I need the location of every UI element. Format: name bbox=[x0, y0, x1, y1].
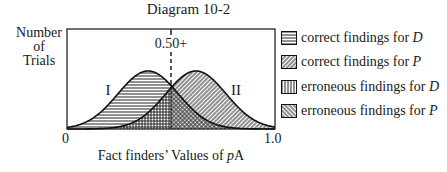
x-axis-label-suffix: A bbox=[234, 148, 244, 163]
legend-item-erroneous-p: erroneous findings for P bbox=[281, 104, 447, 120]
horizontal-lines-swatch-icon bbox=[281, 31, 298, 46]
curve-label-ii: II bbox=[231, 82, 241, 98]
x-axis-label-prefix: Fact finders’ Values of bbox=[98, 148, 227, 163]
legend-item-correct-p: correct findings for P bbox=[281, 55, 447, 71]
legend-var: P bbox=[429, 103, 438, 118]
legend-label: erroneous findings for bbox=[301, 79, 429, 94]
legend-var: P bbox=[413, 54, 422, 69]
x-tick-min: 0 bbox=[62, 131, 69, 147]
legend-label: correct findings for bbox=[301, 54, 413, 69]
legend-item-correct-d: correct findings for D bbox=[281, 31, 447, 47]
x-axis-label: Fact finders’ Values of pA bbox=[0, 148, 342, 164]
x-tick-max: 1.0 bbox=[264, 131, 282, 147]
legend-item-erroneous-d: erroneous findings for D bbox=[281, 80, 447, 96]
legend-var: D bbox=[413, 30, 423, 45]
diagonal-lines-swatch-icon bbox=[281, 55, 298, 70]
legend-var: D bbox=[429, 79, 439, 94]
vertical-lines-swatch-icon bbox=[281, 80, 298, 95]
threshold-label: 0.50+ bbox=[155, 36, 188, 51]
legend-label: correct findings for bbox=[301, 30, 413, 45]
legend-label: erroneous findings for bbox=[301, 103, 429, 118]
back-diagonal-lines-swatch-icon bbox=[281, 104, 298, 119]
curve-label-i: I bbox=[106, 82, 111, 98]
diagram-figure: Diagram 10-2 Number of Trials bbox=[0, 0, 447, 172]
